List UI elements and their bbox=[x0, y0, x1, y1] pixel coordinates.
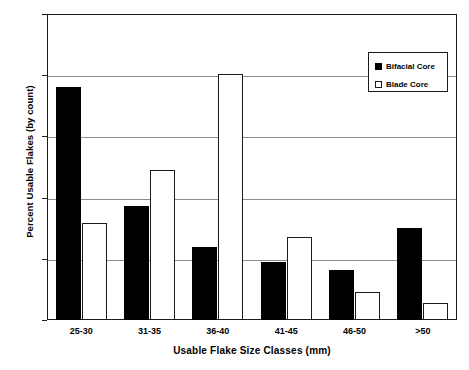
legend: Bifacial Core Blade Core bbox=[368, 52, 448, 92]
legend-label: Blade Core bbox=[386, 80, 428, 89]
bar bbox=[218, 74, 243, 320]
y-tick-mark bbox=[42, 320, 47, 321]
bar bbox=[192, 247, 217, 320]
y-axis-title: Percent Usable Flakes (by count) bbox=[24, 37, 35, 287]
bar bbox=[82, 223, 107, 320]
x-tick-label: 25-30 bbox=[70, 326, 93, 336]
legend-swatch-open-square-icon bbox=[375, 81, 382, 88]
legend-label: Bifacial Core bbox=[386, 62, 435, 71]
bar bbox=[397, 228, 422, 320]
bar bbox=[261, 262, 286, 320]
x-axis-title: Usable Flake Size Classes (mm) bbox=[47, 345, 457, 356]
x-tick-label: 41-45 bbox=[275, 326, 298, 336]
x-tick-label: >50 bbox=[415, 326, 430, 336]
bar bbox=[355, 292, 380, 320]
bar bbox=[124, 206, 149, 320]
legend-item-bifacial-core: Bifacial Core bbox=[375, 59, 447, 73]
bar bbox=[150, 170, 175, 320]
bar bbox=[423, 303, 448, 320]
x-tick-label: 31-35 bbox=[138, 326, 161, 336]
legend-item-blade-core: Blade Core bbox=[375, 77, 447, 91]
bar bbox=[329, 270, 354, 320]
x-tick-label: 46-50 bbox=[343, 326, 366, 336]
bar bbox=[56, 87, 81, 320]
legend-swatch-filled-square-icon bbox=[375, 63, 382, 70]
bar bbox=[287, 237, 312, 320]
x-tick-label: 36-40 bbox=[206, 326, 229, 336]
bar-chart: Percent Usable Flakes (by count) 0102030… bbox=[0, 0, 469, 370]
